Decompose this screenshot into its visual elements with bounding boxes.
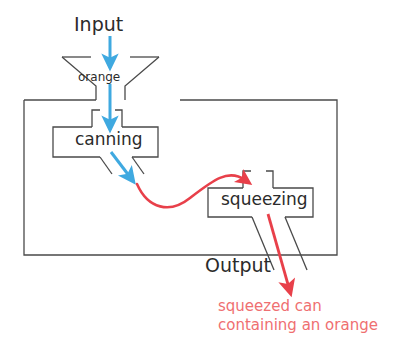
result-caption-line1: squeezed can <box>218 297 378 316</box>
arrow-canning-output <box>111 152 130 177</box>
diagram-canvas: Input orange canning squeezing Output sq… <box>0 0 419 357</box>
result-caption-line2: containing an orange <box>218 316 378 335</box>
arrow-canning-to-squeezing <box>137 175 245 207</box>
system-boundary-rect <box>24 100 337 255</box>
result-caption: squeezed can containing an orange <box>218 297 378 335</box>
canning-node-shape <box>53 110 158 174</box>
arrow-squeezing-to-output <box>268 214 289 288</box>
